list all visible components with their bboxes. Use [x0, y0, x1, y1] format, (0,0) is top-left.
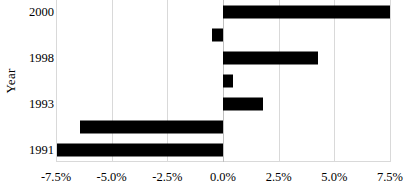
y-axis-tick-label: 1991: [18, 144, 54, 157]
x-axis-tick-label: 5.0%: [321, 171, 347, 184]
y-axis-tick-labels: 2000199819931991: [18, 0, 54, 162]
gridline: [112, 0, 113, 162]
gridline: [167, 0, 168, 162]
bar: [212, 28, 223, 41]
x-axis-tick-label: -5.0%: [97, 171, 127, 184]
y-axis-tick-label: 2000: [18, 5, 54, 18]
bar: [223, 75, 233, 88]
bar: [80, 121, 223, 134]
y-axis-tick-label: 1993: [18, 98, 54, 111]
gridline: [56, 0, 57, 162]
x-axis-tick-label: -7.5%: [41, 171, 71, 184]
bar: [223, 5, 390, 18]
y-axis-tick-label: 1998: [18, 52, 54, 65]
bar: [57, 144, 223, 157]
bar: [223, 51, 318, 64]
gridline: [390, 0, 391, 162]
x-axis-tick-label: 7.5%: [377, 171, 403, 184]
y-axis-title-label: Year: [3, 68, 19, 93]
x-axis-tick-label: 2.5%: [266, 171, 292, 184]
bar: [223, 98, 263, 111]
bar-chart: Year 2000199819931991 -7.5%-5.0%-2.5%0.0…: [0, 0, 405, 193]
x-axis-tick-labels: -7.5%-5.0%-2.5%0.0%2.5%5.0%7.5%: [56, 162, 390, 193]
plot-area: [56, 0, 390, 162]
gridline: [334, 0, 335, 162]
x-axis-tick-label: 0.0%: [210, 171, 236, 184]
x-axis-tick-label: -2.5%: [152, 171, 182, 184]
gridline: [279, 0, 280, 162]
